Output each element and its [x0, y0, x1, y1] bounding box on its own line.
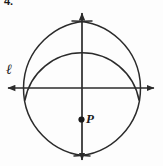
construction-drawing [0, 0, 163, 166]
geometry-construction-figure: 4. ℓ P [0, 0, 163, 166]
point-p-marker [78, 116, 84, 122]
line-l-label: ℓ [6, 63, 12, 77]
point-p-label: P [86, 112, 94, 125]
problem-number-label: 4. [4, 0, 13, 7]
